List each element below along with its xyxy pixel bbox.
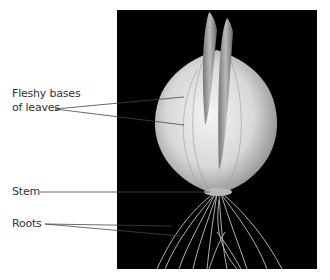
label-stem: Stem — [12, 185, 40, 199]
leader-lines — [0, 0, 330, 280]
label-fleshy-bases: Fleshy bases of leaves — [12, 87, 80, 115]
label-fleshy-bases-line1: Fleshy bases — [12, 87, 80, 101]
label-roots: Roots — [12, 217, 42, 231]
label-fleshy-bases-line2: of leaves — [12, 101, 80, 115]
